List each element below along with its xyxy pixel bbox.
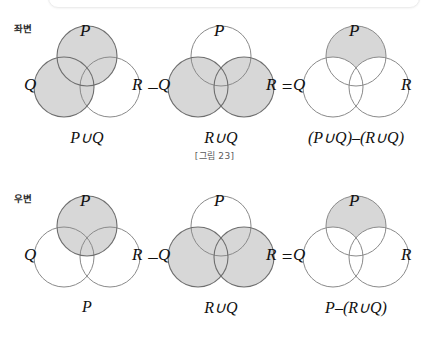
set-label-p: P bbox=[349, 192, 359, 209]
expression-label: (P∪Q)–(R∪Q) bbox=[273, 128, 429, 147]
venn-diagram-p: P Q R P bbox=[28, 194, 146, 314]
venn-diagram-p-union-q-minus-r-union-q: P Q R (P∪Q)–(R∪Q) bbox=[297, 24, 415, 144]
set-label-r: R bbox=[401, 246, 411, 263]
figure-row-left-side: 좌변 P Q R P∪Q – bbox=[0, 0, 429, 170]
set-label-r: R bbox=[132, 246, 142, 263]
set-label-r: R bbox=[401, 76, 411, 93]
venn-diagram-p-union-q: P Q R P∪Q bbox=[28, 24, 146, 144]
set-label-p: P bbox=[80, 22, 90, 39]
expression-label: P–(R∪Q) bbox=[273, 298, 429, 317]
figure-caption-23: [그림 23] bbox=[0, 149, 429, 162]
venn-diagram-r-union-q: P Q R R∪Q bbox=[162, 24, 280, 144]
figure-sheet: 좌변 P Q R P∪Q – bbox=[0, 0, 429, 341]
set-label-q: Q bbox=[158, 76, 170, 93]
set-label-q: Q bbox=[158, 246, 170, 263]
set-label-r: R bbox=[266, 246, 276, 263]
set-label-q: Q bbox=[24, 76, 36, 93]
set-label-p: P bbox=[349, 22, 359, 39]
venn-diagram-p-minus-r-union-q: P Q R P–(R∪Q) bbox=[297, 194, 415, 314]
set-label-r: R bbox=[132, 76, 142, 93]
figure-row-right-side: 우변 P Q R P – P Q bbox=[0, 170, 429, 340]
set-label-p: P bbox=[80, 192, 90, 209]
set-label-q: Q bbox=[293, 76, 305, 93]
set-label-p: P bbox=[214, 192, 224, 209]
set-label-q: Q bbox=[24, 246, 36, 263]
set-label-q: Q bbox=[293, 246, 305, 263]
set-label-p: P bbox=[214, 22, 224, 39]
set-label-r: R bbox=[266, 76, 276, 93]
venn-diagram-r-union-q: P Q R R∪Q bbox=[162, 194, 280, 314]
